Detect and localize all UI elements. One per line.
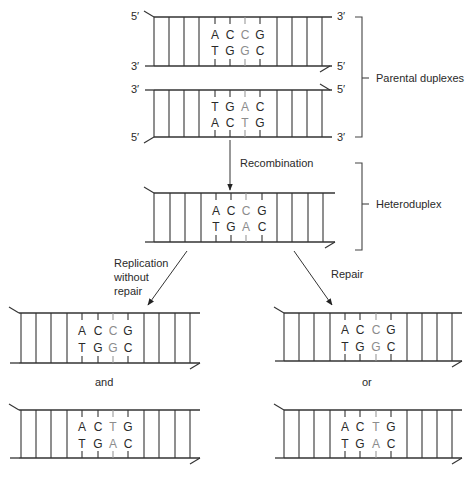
bottom-base: G [225,44,234,58]
bottom-base: C [124,437,133,451]
top-base: C [227,204,236,218]
strand-overhang [190,458,200,464]
bottom-base: G [108,341,117,355]
duplex-parental-2: TAGCATCG3′5′5′3′ [131,83,345,143]
bottom-base: G [93,437,102,451]
bottom-base: T [78,437,86,451]
duplex-replication-product-1: ATCGCGGC [9,307,200,369]
top-base: C [256,100,265,114]
diagram-canvas: ATCGCGGC5′3′3′5′TAGCATCG3′5′5′3′ATCGCAGC… [0,0,475,479]
bottom-base: C [124,341,133,355]
end-label-bottom-right: 3′ [337,131,345,143]
bottom-base: A [242,220,250,234]
top-base: C [372,323,381,337]
heteroduplex-bracket [355,163,369,250]
top-base: G [255,28,264,42]
top-base: C [226,28,235,42]
and-label: and [95,376,113,388]
top-base: A [341,420,349,434]
repair-arrow-icon [294,251,332,305]
recombination-label: Recombination [240,157,313,169]
end-label-bottom-left: 3′ [131,60,139,72]
end-label-top-left: 3′ [131,83,139,95]
bottom-base: G [255,116,264,130]
strand-overhang [144,187,154,193]
bottom-base: G [355,340,364,354]
bottom-base: T [341,340,349,354]
top-base: A [212,204,220,218]
end-label-top-right: 5′ [337,83,345,95]
top-base: C [356,323,365,337]
strand-overhang [320,84,330,90]
duplex-parental-1: ATCGCGGC5′3′3′5′ [131,10,345,72]
top-base: A [341,323,349,337]
top-base: C [356,420,365,434]
bottom-base: G [371,340,380,354]
bracket-layer [355,17,369,250]
strand-overhang [144,137,154,143]
parental-bracket [355,17,369,137]
top-base: C [241,28,250,42]
top-base: A [78,324,86,338]
end-label-top-right: 3′ [337,10,345,22]
strand-overhang [144,11,154,17]
bottom-base: A [211,116,219,130]
strand-overhang [9,404,19,410]
top-base: A [241,100,249,114]
top-base: G [386,323,395,337]
parental-duplexes-label: Parental duplexes [376,72,465,84]
bracket-shape [355,163,362,250]
top-base: G [123,324,132,338]
top-base: G [386,420,395,434]
bottom-base: T [212,220,220,234]
top-base: T [109,420,117,434]
or-label: or [362,376,372,388]
heteroduplex-label: Heteroduplex [376,198,442,210]
replication-label-line3: repair [114,285,142,297]
top-base: C [94,420,103,434]
bottom-base: C [387,437,396,451]
top-base: C [109,324,118,338]
bottom-base: T [341,437,349,451]
top-base: G [123,420,132,434]
replication-label-line2: without [113,271,149,283]
strand-overhang [452,361,462,367]
bottom-base: A [372,437,380,451]
bottom-base: T [211,44,219,58]
bottom-base: C [387,340,396,354]
strand-overhang [325,242,335,248]
bottom-base: G [240,44,249,58]
top-base: T [211,100,219,114]
strand-overhang [452,458,462,464]
strand-overhang [274,404,284,410]
bracket-shape [355,17,362,137]
top-base: A [211,28,219,42]
top-base: G [257,204,266,218]
bottom-base: A [109,437,117,451]
top-base: C [242,204,251,218]
strand-overhang [274,307,284,313]
bottom-base: T [78,341,86,355]
duplex-replication-product-2: ATCGTAGC [9,404,200,464]
top-base: G [225,100,234,114]
top-base: C [94,324,103,338]
top-base: A [78,420,86,434]
bottom-base: G [226,220,235,234]
bottom-base: G [93,341,102,355]
duplex-repair-product-1: ATCGCGGC [274,307,462,367]
end-label-top-left: 5′ [131,10,139,22]
bottom-base: C [226,116,235,130]
end-label-bottom-left: 5′ [131,131,139,143]
bottom-base: C [256,44,265,58]
bottom-base: C [258,220,267,234]
repair-label: Repair [331,268,364,280]
end-label-bottom-right: 5′ [337,60,345,72]
duplex-heteroduplex: ATCGCAGC [144,187,335,248]
bottom-base: G [355,437,364,451]
strand-overhang [320,66,330,72]
recombination-diagram: ATCGCGGC5′3′3′5′TAGCATCG3′5′5′3′ATCGCAGC… [0,0,475,479]
bottom-base: T [241,116,249,130]
strand-overhang [9,307,19,313]
replication-label-line1: Replication [114,257,168,269]
duplex-repair-product-2: ATCGTAGC [274,404,462,464]
